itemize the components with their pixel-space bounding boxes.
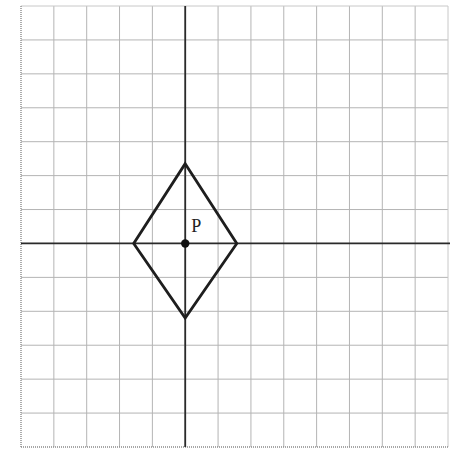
coordinate-grid-figure: P xyxy=(0,0,451,466)
point-p-label: P xyxy=(191,216,201,236)
axes xyxy=(21,6,450,447)
grid-lines xyxy=(21,6,448,447)
point-p-dot xyxy=(181,239,189,247)
grid-border xyxy=(21,6,448,447)
